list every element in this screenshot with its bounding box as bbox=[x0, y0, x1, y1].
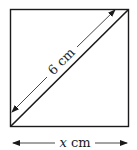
side-length-unit: cm bbox=[67, 135, 91, 150]
diagonal-length-label: 6 cm bbox=[45, 45, 78, 78]
side-length-label: x cm bbox=[59, 135, 90, 150]
square-diagram: 6 cm x cm bbox=[0, 0, 137, 150]
square-diagonal bbox=[11, 10, 129, 127]
